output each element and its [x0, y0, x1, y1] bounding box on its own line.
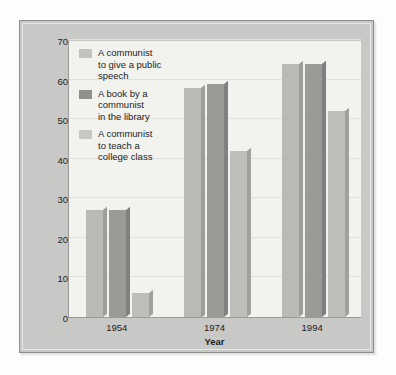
bar	[109, 210, 126, 317]
figure-container: Percent of public that would allow: A co…	[0, 0, 396, 375]
bar-side	[103, 207, 107, 317]
y-tick-label: 70	[46, 36, 68, 47]
bar	[305, 64, 322, 317]
legend-swatch	[79, 90, 92, 99]
gridline	[69, 39, 361, 40]
x-axis-title: Year	[68, 336, 361, 347]
y-tick-label: 30	[46, 194, 68, 205]
y-tick-label: 60	[46, 75, 68, 86]
bar	[328, 111, 345, 317]
bar	[86, 210, 103, 317]
bar-face	[305, 64, 322, 317]
bar-face	[86, 210, 103, 317]
bar-face	[230, 151, 247, 317]
bar-side	[126, 207, 130, 317]
x-tick-label: 1994	[282, 322, 342, 333]
bar-face	[207, 84, 224, 317]
chart-frame: Percent of public that would allow: A co…	[19, 20, 374, 353]
legend-swatch	[79, 49, 92, 58]
bar-side	[224, 80, 228, 317]
y-tick-label: 50	[46, 115, 68, 126]
legend-item: A communist to teach a college class	[79, 128, 209, 163]
bar	[207, 84, 224, 317]
bar-face	[282, 64, 299, 317]
bar	[132, 293, 149, 317]
y-tick-label: 20	[46, 233, 68, 244]
bar-side	[322, 61, 326, 317]
bar-side	[149, 290, 153, 317]
y-tick-label: 0	[46, 313, 68, 324]
legend-swatch	[79, 130, 92, 139]
x-tick-label: 1954	[87, 322, 147, 333]
y-tick-label: 40	[46, 154, 68, 165]
bar-face	[109, 210, 126, 317]
legend-label: A communist to teach a college class	[98, 128, 152, 163]
plot-area: A communist to give a public speechA boo…	[68, 41, 361, 318]
chart-legend: A communist to give a public speechA boo…	[79, 47, 209, 169]
bar-side	[247, 148, 251, 317]
bar-side	[299, 61, 303, 317]
legend-item: A book by a communist in the library	[79, 88, 209, 123]
bar	[282, 64, 299, 317]
legend-label: A communist to give a public speech	[98, 47, 161, 82]
bar	[230, 151, 247, 317]
bar-face	[132, 293, 149, 317]
bar-face	[328, 111, 345, 317]
legend-label: A book by a communist in the library	[98, 88, 150, 123]
bar-side	[345, 108, 349, 317]
y-tick-label: 10	[46, 273, 68, 284]
legend-item: A communist to give a public speech	[79, 47, 209, 82]
x-tick-label: 1974	[185, 322, 245, 333]
